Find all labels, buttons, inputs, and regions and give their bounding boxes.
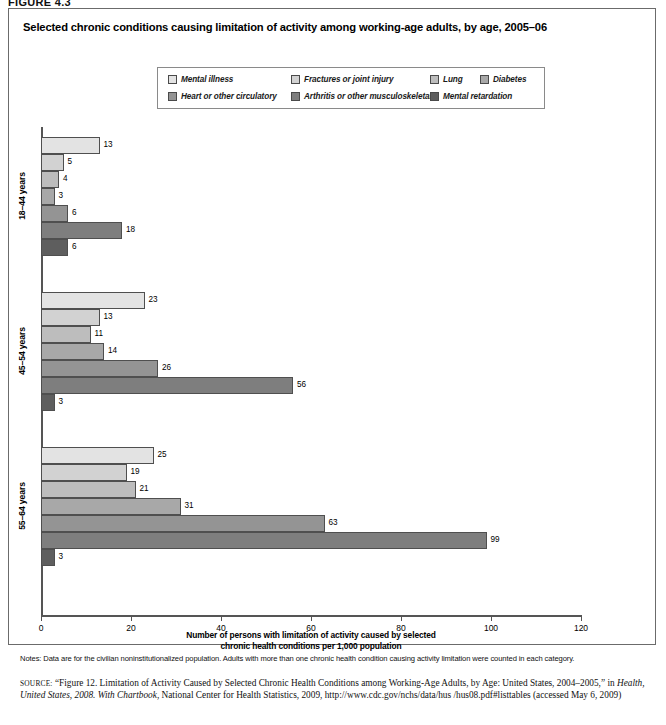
legend-label: Lung (443, 75, 463, 84)
bar[interactable] (41, 360, 158, 377)
x-axis-title-line2: chronic health conditions per 1,000 popu… (41, 641, 581, 652)
x-axis-tick (581, 616, 582, 621)
x-axis-tick (401, 616, 402, 621)
legend-swatch-icon (291, 75, 300, 84)
bar[interactable] (41, 447, 154, 464)
bar[interactable] (41, 154, 64, 171)
legend-label: Mental illness (181, 75, 233, 84)
bar-value-label: 6 (72, 242, 77, 251)
x-axis-tick (311, 616, 312, 621)
bar-value-label: 18 (126, 225, 135, 234)
bar-value-label: 99 (491, 535, 500, 544)
source-part2: , National Center for Health Statistics,… (157, 690, 621, 700)
legend-swatch-icon (480, 75, 489, 84)
x-axis-tick (41, 616, 42, 621)
bar-value-label: 4 (63, 174, 68, 183)
legend-item-arthritis-or-other-musculoskeletal[interactable]: Arthritis or other musculoskeletal (291, 88, 432, 104)
legend-item-heart-or-other-circulatory[interactable]: Heart or other circulatory (168, 88, 277, 104)
bar[interactable] (41, 292, 145, 309)
legend-item-lung[interactable]: Lung (430, 71, 463, 87)
legend-item-diabetes[interactable]: Diabetes (480, 71, 526, 87)
x-axis-tick (491, 616, 492, 621)
legend-row-1: Mental illnessFractures or joint injuryL… (158, 71, 544, 89)
bar-value-label: 11 (95, 329, 104, 338)
bar[interactable] (41, 549, 55, 566)
bar[interactable] (41, 309, 100, 326)
x-axis-tick (221, 616, 222, 621)
x-axis-title-line1: Number of persons with limitation of act… (41, 630, 581, 641)
bar[interactable] (41, 239, 68, 256)
bar[interactable] (41, 464, 127, 481)
bar[interactable] (41, 222, 122, 239)
bar[interactable] (41, 205, 68, 222)
legend-swatch-icon (430, 92, 439, 101)
bar-value-label: 3 (59, 552, 64, 561)
chart-notes: Notes: Data are for the civilian noninst… (20, 654, 656, 664)
bar[interactable] (41, 326, 91, 343)
bar-value-label: 13 (104, 312, 113, 321)
legend-swatch-icon (430, 75, 439, 84)
bar-value-label: 26 (162, 363, 171, 372)
bar-value-label: 23 (149, 295, 158, 304)
bar-value-label: 5 (68, 157, 73, 166)
legend-swatch-icon (291, 92, 300, 101)
bar-group: 135436186 (41, 137, 581, 256)
bar[interactable] (41, 137, 100, 154)
y-axis-group-label: 55–64 years (16, 446, 26, 565)
legend-swatch-icon (168, 92, 177, 101)
source-part1: “Figure 12. Limitation of Activity Cause… (53, 678, 617, 688)
bar[interactable] (41, 498, 181, 515)
bar-value-label: 3 (59, 191, 64, 200)
legend-item-fractures-or-joint-injury[interactable]: Fractures or joint injury (291, 71, 393, 87)
bar-value-label: 21 (140, 484, 149, 493)
bar-value-label: 14 (108, 346, 117, 355)
y-axis-group-label: 18–44 years (16, 136, 26, 255)
bar[interactable] (41, 188, 55, 205)
legend-item-mental-retardation[interactable]: Mental retardation (430, 88, 512, 104)
x-axis-title: Number of persons with limitation of act… (41, 630, 581, 652)
bar-value-label: 56 (297, 380, 306, 389)
legend-label: Mental retardation (443, 92, 512, 101)
legend-row-2: Heart or other circulatoryArthritis or o… (158, 88, 544, 106)
bar[interactable] (41, 343, 104, 360)
legend-label: Heart or other circulatory (181, 92, 277, 101)
y-axis-group-label: 45–54 years (16, 291, 26, 410)
figure-label: FIGURE 4.3 (8, 0, 71, 8)
bar-value-label: 31 (185, 501, 194, 510)
x-axis-tick (131, 616, 132, 621)
legend-label: Diabetes (493, 75, 526, 84)
legend-label: Fractures or joint injury (304, 75, 393, 84)
bar-group: 2519213163993 (41, 447, 581, 566)
legend-item-mental-illness[interactable]: Mental illness (168, 71, 233, 87)
bar[interactable] (41, 481, 136, 498)
bar-value-label: 63 (329, 518, 338, 527)
bar-value-label: 25 (158, 450, 167, 459)
bar[interactable] (41, 394, 55, 411)
bar-group: 2313111426563 (41, 292, 581, 411)
chart-title: Selected chronic conditions causing limi… (23, 21, 643, 33)
chart-legend: Mental illnessFractures or joint injuryL… (157, 67, 545, 109)
plot-area: 02040608010012013543618618–44 years23131… (41, 127, 581, 615)
legend-swatch-icon (168, 75, 177, 84)
bar[interactable] (41, 515, 325, 532)
bar[interactable] (41, 532, 487, 549)
bar[interactable] (41, 377, 293, 394)
bar[interactable] (41, 171, 59, 188)
bar-value-label: 3 (59, 397, 64, 406)
bar-value-label: 13 (104, 140, 113, 149)
figure-frame: Selected chronic conditions causing limi… (8, 8, 656, 645)
legend-label: Arthritis or other musculoskeletal (304, 92, 432, 101)
bar-value-label: 6 (72, 208, 77, 217)
chart-source: SOURCE: “Figure 12. Limitation of Activi… (20, 678, 656, 701)
bar-value-label: 19 (131, 467, 140, 476)
source-prefix: SOURCE: (20, 679, 53, 688)
